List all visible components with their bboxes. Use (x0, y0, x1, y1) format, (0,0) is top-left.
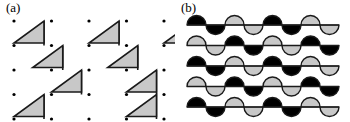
lattice-dot (12, 117, 15, 120)
wave-lobe (187, 98, 206, 108)
wave-lobe (320, 66, 339, 76)
lattice-dot (12, 19, 15, 22)
wave-lobe (225, 57, 244, 67)
wave-lobe (225, 36, 244, 46)
wave-lobe (301, 36, 320, 46)
wave-lobe (206, 107, 225, 117)
lattice-dot (87, 93, 90, 96)
lattice-dot (87, 68, 90, 71)
wave-lobe (301, 77, 320, 87)
wave-row (187, 16, 339, 35)
shaded-triangle (164, 21, 175, 43)
triangle-chains (14, 21, 175, 119)
panel-b: (b) (175, 0, 350, 122)
lattice-dot (162, 44, 165, 47)
wave-lobe (244, 66, 263, 76)
lattice-dot (125, 68, 128, 71)
wave-lobe (206, 46, 225, 56)
lattice-dot (12, 93, 15, 96)
wave-lobe (225, 98, 244, 108)
wave-lobe (320, 25, 339, 35)
wave-lobe (187, 36, 206, 46)
panel-b-graphic (175, 0, 350, 122)
shaded-triangle (108, 46, 138, 68)
panel-a-label: (a) (6, 1, 20, 14)
wave-lobe (263, 77, 282, 87)
wave-lobe (206, 87, 225, 97)
wave-lobe (320, 87, 339, 97)
shaded-triangle (14, 95, 44, 117)
wave-lobe (263, 36, 282, 46)
lattice-dot (50, 44, 53, 47)
wave-row (187, 77, 339, 96)
wave-lobe (301, 16, 320, 26)
lattice-dot (162, 117, 165, 120)
wave-lobe (206, 25, 225, 35)
wave-lobe (263, 98, 282, 108)
triangle-chain (14, 95, 44, 120)
triangle-chain (89, 21, 157, 95)
lattice-dot (125, 19, 128, 22)
shaded-triangle (127, 95, 157, 117)
wave-lobe (301, 98, 320, 108)
shaded-triangle (89, 21, 119, 43)
wave-lobe (263, 57, 282, 67)
wave-lobe (225, 16, 244, 26)
panel-a: (a) (0, 0, 175, 122)
shaded-triangle (52, 70, 82, 92)
panel-a-graphic (0, 0, 175, 122)
figure-root: (a) (b) (0, 0, 350, 122)
shaded-triangle (14, 21, 44, 43)
wave-lobe (282, 107, 301, 117)
lattice-dot (12, 68, 15, 71)
lattice-dot (125, 44, 128, 47)
lattice-dot (50, 68, 53, 71)
wave-lobe (263, 16, 282, 26)
wave-row (187, 36, 339, 55)
lattice-dot (87, 44, 90, 47)
lattice-dot (162, 19, 165, 22)
wave-lobe (282, 87, 301, 97)
wave-lobe (187, 57, 206, 67)
lattice-dot (50, 93, 53, 96)
wave-row (187, 98, 339, 117)
shaded-triangle (127, 70, 157, 92)
lattice-dot (87, 117, 90, 120)
wave-lobe (301, 57, 320, 67)
wave-lobe (282, 46, 301, 56)
wave-lobe (282, 25, 301, 35)
shaded-triangle (33, 46, 63, 68)
lattice-dot (12, 44, 15, 47)
wave-lobe (244, 87, 263, 97)
wave-lobe (320, 46, 339, 56)
lattice-dot (50, 19, 53, 22)
triangle-chain (164, 21, 175, 46)
wave-lobe (244, 25, 263, 35)
wave-lobe (320, 107, 339, 117)
wave-row (187, 57, 339, 76)
wave-lobe (187, 77, 206, 87)
panel-b-label: (b) (181, 1, 196, 14)
lattice-dot (162, 68, 165, 71)
lattice-dot (125, 93, 128, 96)
lattice-dot (87, 19, 90, 22)
triangle-chain (14, 21, 82, 95)
lattice-dot (162, 93, 165, 96)
wave-lobe (225, 77, 244, 87)
triangle-chain (127, 95, 157, 120)
lattice-dot (125, 117, 128, 120)
wave-lobe (187, 16, 206, 26)
wave-lobe (244, 46, 263, 56)
wave-lobe (206, 66, 225, 76)
lattice-dot (50, 117, 53, 120)
wave-lobe (244, 107, 263, 117)
wave-lobe (282, 66, 301, 76)
